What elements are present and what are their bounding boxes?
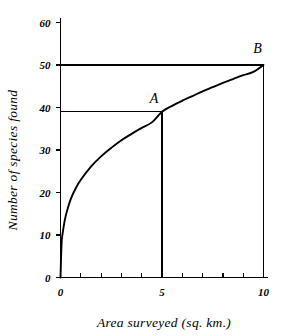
annotation-label-a: A	[149, 91, 159, 106]
y-tick-label-50: 50	[40, 59, 52, 71]
y-tick-label-10: 10	[40, 229, 52, 241]
x-tick-label-5: 5	[159, 286, 165, 298]
x-axis-title: Area surveyed (sq. km.)	[96, 315, 231, 330]
y-tick-label-40: 40	[39, 102, 52, 114]
y-tick-label-0: 0	[45, 272, 51, 284]
y-tick-label-20: 20	[39, 187, 52, 199]
y-tick-label-60: 60	[40, 17, 52, 29]
annotation-label-b: B	[253, 41, 262, 56]
x-tick-label-0: 0	[58, 286, 64, 298]
chart-canvas: 0102030405060 0510 AB Area surveyed (sq.…	[0, 0, 281, 336]
y-tick-label-30: 30	[39, 144, 52, 156]
y-axis-title: Number of species found	[5, 90, 20, 232]
x-tick-label-10: 10	[258, 286, 270, 298]
chart-background	[0, 0, 281, 336]
species-area-chart-figure: 0102030405060 0510 AB Area surveyed (sq.…	[0, 0, 281, 336]
